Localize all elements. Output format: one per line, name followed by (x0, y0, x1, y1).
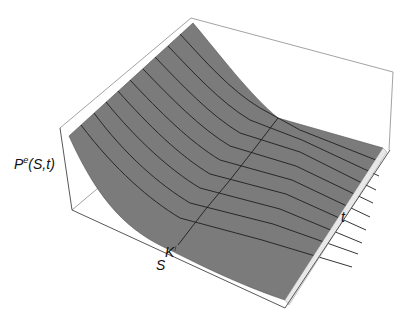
surface-plot (0, 0, 408, 311)
x-axis-label-s: S (156, 257, 165, 273)
surface (69, 23, 387, 305)
z-axis-label-args: (S,t) (28, 156, 54, 172)
x-tick-label-k: K (165, 245, 174, 259)
z-axis-label-main: P (14, 156, 23, 172)
y-axis-label: t (341, 210, 345, 224)
z-axis-label: Pe(S,t) (14, 156, 55, 171)
x-axis-label: SK (156, 258, 165, 272)
